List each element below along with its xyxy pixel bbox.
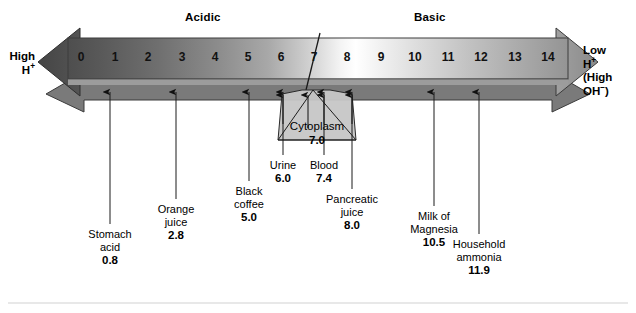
ph-tick-5: 5 [245,50,252,64]
callout-black-coffee-line2: coffee [234,198,264,211]
ph-tick-11: 11 [442,50,455,64]
ph-tick-8: 8 [344,50,351,64]
callout-stomach-acid: Stomachacid0.8 [88,228,131,268]
ph-tick-2: 2 [145,50,152,64]
high-h-plus-line2: H+ [5,64,35,78]
ph-tick-14: 14 [541,50,554,64]
ph-tick-12: 12 [474,50,487,64]
h-plus-superscript-right: + [591,56,596,65]
high-oh-line4: OH−) [583,85,612,99]
low-h-plus-line2: H+ [583,58,612,72]
callout-pancreatic-juice-line1: Pancreatic [326,193,378,206]
callout-orange-juice-line2: juice [158,216,195,229]
ph-scale-figure: Acidic Basic High H+ Low H+ (High OH−) 0… [0,0,636,313]
ph-tick-4: 4 [212,50,219,64]
callout-black-coffee-line1: Black [234,185,264,198]
ph-tick-6: 6 [278,50,285,64]
callout-urine: Urine6.0 [270,159,296,186]
callout-blood-value: 7.4 [310,172,338,186]
callout-household-ammonia: Householdammonia11.9 [453,238,506,278]
callout-black-coffee-value: 5.0 [234,211,264,225]
callout-stomach-acid-line2: acid [88,241,131,254]
ph-tick-7: 7 [311,50,318,64]
acidic-header: Acidic [185,11,221,24]
ph-tick-9: 9 [378,50,385,64]
callout-orange-juice-value: 2.8 [158,229,195,243]
ph-tick-3: 3 [179,50,186,64]
callout-stomach-acid-value: 0.8 [88,254,131,268]
callout-orange-juice: Orangejuice2.8 [158,203,195,243]
callout-milk-of-magnesia-line1: Milk of [410,210,458,223]
callout-black-coffee: Blackcoffee5.0 [234,185,264,225]
callout-stomach-acid-line1: Stomach [88,228,131,241]
ph-tick-10: 10 [408,50,421,64]
high-oh-line3: (High [583,71,612,85]
callout-blood: Blood7.4 [310,159,338,186]
callout-pancreatic-juice: Pancreaticjuice8.0 [326,193,378,233]
h-plus-superscript: + [30,62,35,71]
callout-urine-value: 6.0 [270,172,296,186]
basic-header: Basic [414,11,446,24]
callout-household-ammonia-value: 11.9 [453,264,506,278]
callout-pancreatic-juice-line2: juice [326,206,378,219]
ph-tick-1: 1 [112,50,119,64]
callout-milk-of-magnesia-value: 10.5 [410,236,458,250]
callout-household-ammonia-line2: ammonia [453,251,506,264]
cytoplasm-label: Cytoplasm [290,120,344,133]
callout-milk-of-magnesia-line2: Magnesia [410,223,458,236]
callout-blood-line1: Blood [310,159,338,172]
cytoplasm-value: 7.0 [309,134,325,146]
callout-urine-line1: Urine [270,159,296,172]
low-h-plus-line1: Low [583,44,612,58]
callout-orange-juice-line1: Orange [158,203,195,216]
callout-milk-of-magnesia: Milk ofMagnesia10.5 [410,210,458,250]
high-h-plus-label: High H+ [5,50,35,77]
ph-tick-0: 0 [78,50,85,64]
ph-gradient-bar [68,38,568,85]
callout-pancreatic-juice-value: 8.0 [326,219,378,233]
callout-household-ammonia-line1: Household [453,238,506,251]
ph-tick-13: 13 [508,50,521,64]
low-h-plus-label: Low H+ (High OH−) [583,44,612,98]
